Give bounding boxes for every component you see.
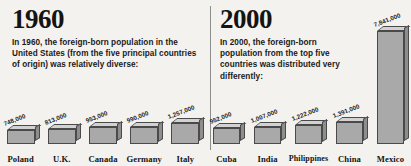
bar-group: 1,391,000	[329, 96, 370, 144]
bar-group: 953,000	[82, 96, 123, 144]
bar-group: 1,007,000	[247, 96, 288, 144]
chart-1960: 748,000 813,000 95	[0, 94, 206, 166]
bar-front-face	[254, 127, 281, 144]
panel-1960-description: In 1960, the foreign-born population in …	[12, 37, 198, 71]
bar-group: 813,000	[41, 96, 82, 144]
bar-side-face	[199, 117, 204, 141]
bar-group: 990,000	[124, 96, 165, 144]
bar-front-face	[213, 128, 240, 144]
bar-side-face	[76, 123, 81, 141]
chart-1960-category-labels: Poland U.K. Canada Germany Italy	[0, 154, 206, 164]
category-label: Poland	[0, 154, 41, 164]
chart-1960-bars: 748,000 813,000 95	[0, 96, 206, 144]
category-label: Cuba	[206, 154, 247, 164]
bar-side-face	[322, 118, 327, 141]
category-label: Canada	[82, 154, 123, 164]
panel-2000-description: In 2000, the foreign-born population fro…	[220, 37, 340, 82]
bar-side-face	[35, 124, 40, 141]
category-label: Italy	[165, 154, 206, 164]
bar-group: 1,257,000	[165, 96, 206, 144]
category-label: Mexico	[370, 154, 411, 164]
bar-front-face	[89, 127, 117, 144]
bar-front-face	[295, 125, 322, 145]
bar-front-face	[130, 127, 158, 145]
bar-value-label: 1,222,000	[290, 105, 319, 122]
panel-2000: 2000 In 2000, the foreign-born populatio…	[206, 0, 411, 166]
infographic-root: 1960 In 1960, the foreign-born populatio…	[0, 0, 411, 166]
chart-2000: 952,000 1,007,000	[206, 94, 411, 166]
chart-2000-category-labels: Cuba India Philippines China Mexico	[206, 154, 411, 164]
panel-1960: 1960 In 1960, the foreign-born populatio…	[0, 0, 206, 166]
bar-side-face	[404, 25, 409, 141]
bar-group: 748,000	[0, 96, 41, 144]
bar-side-face	[363, 116, 368, 141]
bar-group: 7,841,000	[370, 96, 411, 144]
bar-side-face	[281, 121, 286, 141]
bar-front-face	[171, 123, 199, 144]
bar-side-face	[117, 121, 122, 141]
bar-front-face	[377, 31, 404, 144]
category-label: China	[329, 154, 370, 164]
bar-group: 952,000	[206, 96, 247, 144]
bar-group: 1,222,000	[288, 96, 329, 144]
bar-front-face	[48, 129, 76, 144]
panel-1960-year: 1960	[12, 4, 198, 34]
bar-front-face	[7, 130, 35, 144]
category-label: U.K.	[41, 154, 82, 164]
bar-side-face	[158, 120, 163, 141]
category-label: Germany	[124, 154, 165, 164]
chart-2000-bars: 952,000 1,007,000	[206, 96, 411, 144]
bar-side-face	[240, 122, 245, 141]
category-label: Philippines	[288, 154, 329, 164]
bar-front-face	[336, 122, 363, 144]
category-label: India	[247, 154, 288, 164]
